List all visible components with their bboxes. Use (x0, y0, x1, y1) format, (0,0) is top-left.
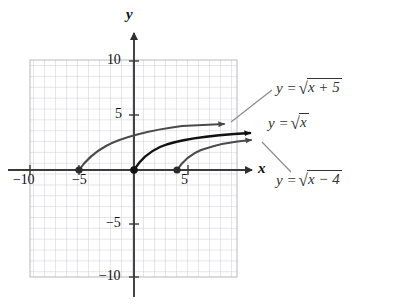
label-sqrt-x-minus-4-radicand: x − 4 (308, 171, 340, 187)
endpoint-dot-sqrt-x (130, 166, 138, 174)
x-axis-label: x (258, 160, 266, 177)
x-tick-label-neg10: −10 (13, 172, 34, 188)
y-tick-label-neg5: −5 (106, 215, 121, 231)
y-tick-label-neg10: −10 (99, 268, 120, 284)
endpoint-dot-sqrt-x-minus-4 (173, 166, 180, 173)
x-tick-label-neg5: −5 (72, 172, 87, 188)
label-sqrt-x-plus-5-radicand: x + 5 (308, 79, 340, 95)
y-axis-label: y (126, 6, 133, 23)
leader-line-sqrt-x-minus-4 (262, 142, 291, 172)
label-sqrt-x-prefix: y = (268, 115, 289, 131)
label-sqrt-x-plus-5: y =√x + 5 (276, 78, 342, 98)
label-sqrt-x-minus-4: y =√x − 4 (276, 170, 342, 190)
x-tick-label-5: 5 (181, 172, 188, 188)
y-tick-label-10: 10 (107, 52, 121, 68)
y-tick-label-5: 5 (115, 106, 122, 122)
label-sqrt-x-plus-5-prefix: y = (276, 80, 297, 96)
label-sqrt-x: y =√x (268, 113, 309, 133)
graph-figure: y x 10 5 −5 −10 −10 −5 5 y =√x + 5 y =√x… (0, 0, 395, 305)
label-sqrt-x-radicand: x (300, 114, 307, 130)
coordinate-plane-svg (0, 0, 395, 305)
label-sqrt-x-minus-4-prefix: y = (276, 172, 297, 188)
